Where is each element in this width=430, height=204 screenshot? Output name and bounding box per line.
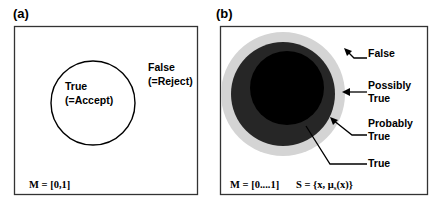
true-label: True	[65, 80, 87, 92]
false-leader	[348, 52, 367, 58]
true-label-b: True	[368, 157, 390, 169]
true-core	[250, 51, 324, 125]
probably-label-line2: True	[368, 130, 390, 142]
panel-a-frame	[15, 27, 198, 195]
false-label-b: False	[368, 47, 395, 59]
diagram-canvas: True (=Accept) False (=Reject) M = [0,1]…	[0, 0, 430, 204]
possibly-label-line2: True	[368, 92, 390, 104]
false-label: False	[148, 61, 175, 73]
set-definition: S = {x, μs(x)}	[296, 179, 353, 192]
accept-label: (=Accept)	[65, 94, 113, 106]
probably-label-line1: Probably	[368, 117, 413, 129]
membership-label-b: M = [0....1]	[230, 179, 279, 190]
panel-b: False Possibly True Probably True True M…	[221, 27, 428, 195]
panel-a: True (=Accept) False (=Reject) M = [0,1]	[15, 27, 198, 195]
membership-label-a: M = [0,1]	[29, 179, 70, 190]
reject-label: (=Reject)	[148, 75, 193, 87]
possibly-label-line1: Possibly	[368, 79, 411, 91]
